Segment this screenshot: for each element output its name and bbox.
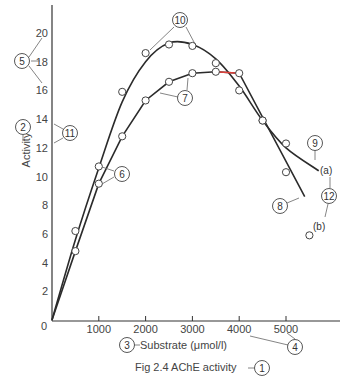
x-ticks: 10002000300040005000: [87, 316, 299, 335]
svg-text:6: 6: [119, 169, 125, 180]
callout-1: 1: [255, 361, 270, 376]
x-tick-label: 2000: [133, 323, 157, 335]
curve-a: [52, 42, 319, 320]
data-point-a: [165, 41, 172, 48]
data-point-b: [95, 180, 102, 187]
data-point-b: [306, 232, 313, 239]
curves: [52, 42, 319, 320]
callout-2: 2: [16, 120, 31, 135]
data-point-b: [236, 70, 243, 77]
callout-10: 10: [173, 13, 188, 28]
x-axis-title: Substrate (μmol/l): [140, 339, 227, 351]
data-point-b: [189, 70, 196, 77]
series-label-b: (b): [313, 221, 325, 232]
x-tick-label: 1000: [87, 323, 111, 335]
data-point-b: [282, 169, 289, 176]
data-point-a: [212, 60, 219, 67]
data-point-b: [165, 78, 172, 85]
chart: 10002000300040005000 2468101214161820 0 …: [0, 0, 351, 377]
y-axis-title: Activity: [20, 132, 32, 167]
callouts: [23, 27, 330, 368]
data-point-b: [142, 97, 149, 104]
y-tick-label: 4: [42, 257, 48, 269]
svg-text:12: 12: [323, 191, 335, 202]
callout-4: 4: [288, 340, 303, 355]
callout-9: 9: [308, 136, 323, 151]
svg-text:5: 5: [19, 56, 25, 67]
data-point-a: [236, 87, 243, 94]
axes: 10002000300040005000 2468101214161820 0: [36, 5, 340, 335]
data-point-b: [119, 133, 126, 140]
figure-caption: Fig 2.4 AChE activity: [135, 361, 237, 373]
callout-8: 8: [273, 199, 288, 214]
svg-text:4: 4: [292, 342, 298, 353]
y-tick-label: 2: [42, 285, 48, 297]
data-point-a: [95, 163, 102, 170]
svg-text:11: 11: [65, 128, 76, 139]
callout-12: 12: [322, 189, 337, 204]
data-point-a: [282, 140, 289, 147]
y-tick-label: 8: [42, 199, 48, 211]
y-tick-label: 16: [36, 84, 48, 96]
callout-7: 7: [178, 91, 193, 106]
series-label-a: (a): [320, 165, 332, 176]
y-tick-label: 10: [36, 171, 48, 183]
data-point-b: [212, 68, 219, 75]
data-point-b: [72, 248, 79, 255]
y-ticks: 2468101214161820: [36, 27, 48, 297]
callout-11: 11: [63, 126, 78, 141]
x-tick-label: 4000: [227, 323, 251, 335]
y-tick-label: 14: [36, 113, 48, 125]
svg-text:9: 9: [312, 138, 318, 149]
y-tick-label: 18: [36, 56, 48, 68]
x-tick-label: 5000: [274, 323, 298, 335]
y-tick-label: 20: [36, 27, 48, 39]
x-tick-label: 3000: [180, 323, 204, 335]
svg-text:1: 1: [259, 363, 265, 374]
data-point-a: [72, 227, 79, 234]
data-point-a: [142, 49, 149, 56]
callout-5: 5: [15, 54, 30, 69]
origin-label: 0: [41, 320, 47, 332]
svg-text:8: 8: [277, 201, 283, 212]
svg-text:10: 10: [174, 15, 186, 26]
y-tick-label: 6: [42, 228, 48, 240]
y-tick-label: 12: [36, 142, 48, 154]
data-points: [72, 41, 313, 255]
svg-text:7: 7: [182, 93, 188, 104]
callout-6: 6: [115, 167, 130, 182]
callout-3: 3: [120, 338, 135, 353]
data-point-a: [119, 88, 126, 95]
data-point-b: [259, 117, 266, 124]
svg-text:3: 3: [124, 340, 130, 351]
svg-text:2: 2: [20, 122, 26, 133]
